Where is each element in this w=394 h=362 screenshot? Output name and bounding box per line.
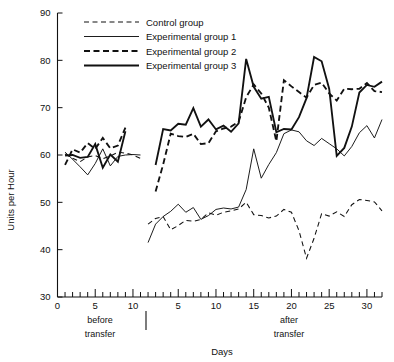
y-tick-label: 80	[40, 55, 51, 66]
x-axis-ticks	[58, 289, 383, 297]
after-transfer-label-line1: after	[280, 315, 298, 325]
x-axis-title: Days	[211, 346, 233, 357]
legend-label: Experimental group 1	[146, 31, 236, 42]
x-tick-label: 20	[286, 300, 297, 311]
y-axis-ticks	[58, 13, 63, 297]
y-tick-label: 90	[40, 7, 51, 18]
legend-label: Control group	[146, 17, 204, 28]
before-transfer-label-line1: before	[87, 315, 113, 325]
y-tick-label: 70	[40, 102, 51, 113]
y-tick-label: 30	[40, 291, 51, 302]
x-tick-label: 10	[128, 300, 139, 311]
y-axis-title: Units per Hour	[5, 169, 16, 230]
chart-container: 30405060708090 051051015202530 Units per…	[0, 0, 394, 362]
legend-label: Experimental group 2	[146, 46, 236, 57]
y-axis-tick-labels: 30405060708090	[40, 7, 51, 302]
x-tick-label: 5	[93, 300, 98, 311]
before-transfer-label-line2: transfer	[85, 329, 116, 339]
x-tick-label: 30	[362, 300, 373, 311]
x-tick-label: 25	[324, 300, 335, 311]
y-tick-label: 60	[40, 149, 51, 160]
y-tick-label: 40	[40, 244, 51, 255]
legend: Control groupExperimental group 1Experim…	[84, 17, 236, 72]
y-tick-label: 50	[40, 197, 51, 208]
series-line-after	[148, 199, 382, 258]
x-tick-label: 15	[248, 300, 259, 311]
x-tick-label: 10	[211, 300, 222, 311]
legend-label: Experimental group 3	[146, 60, 236, 71]
series-line-before	[65, 149, 140, 175]
x-tick-label: 5	[176, 300, 181, 311]
x-axis-tick-labels: 051051015202530	[55, 300, 372, 311]
after-transfer-label-line2: transfer	[274, 329, 305, 339]
x-tick-label: 0	[55, 300, 60, 311]
series-line-before	[65, 131, 125, 167]
data-series-group	[65, 57, 382, 258]
line-chart: 30405060708090 051051015202530 Units per…	[0, 0, 394, 362]
